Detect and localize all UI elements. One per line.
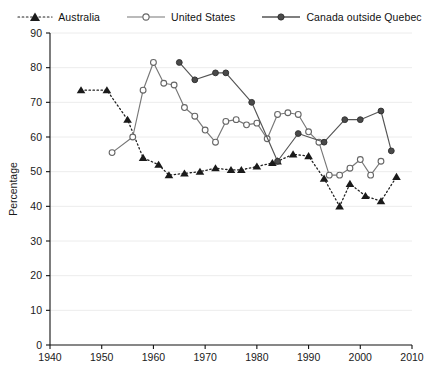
plot-area: 0102030405060708090 19401950196019701980…	[0, 0, 439, 390]
data-point	[109, 150, 115, 156]
series-line	[81, 90, 396, 206]
data-point	[306, 129, 312, 135]
data-point	[161, 80, 167, 86]
data-point	[289, 150, 298, 157]
data-point	[378, 158, 384, 164]
y-tick-label: 20	[30, 269, 42, 281]
y-tick-label: 0	[36, 339, 42, 351]
data-point	[130, 134, 136, 140]
y-axis-title: Percentage	[7, 162, 19, 216]
data-point	[342, 117, 348, 123]
data-point	[253, 162, 262, 169]
data-point	[377, 197, 386, 204]
x-tick-label: 1960	[142, 351, 166, 363]
data-point	[213, 139, 219, 145]
x-tick-label: 1980	[245, 351, 269, 363]
y-tick-label: 30	[30, 235, 42, 247]
data-point	[233, 117, 239, 123]
chart-svg: 0102030405060708090 19401950196019701980…	[0, 0, 439, 390]
data-point	[295, 131, 301, 137]
data-point	[347, 165, 353, 171]
data-point	[388, 148, 394, 154]
data-point	[392, 173, 401, 180]
chart-container: Australia United States Canada outside Q…	[0, 0, 439, 390]
data-point	[154, 161, 163, 168]
data-series-layer	[77, 60, 401, 210]
y-tick-label: 70	[30, 96, 42, 108]
y-tick-label: 40	[30, 200, 42, 212]
data-point	[304, 152, 313, 159]
data-point	[254, 120, 260, 126]
data-point	[213, 70, 219, 76]
series-australia	[77, 86, 401, 209]
x-tick-label: 1940	[38, 351, 62, 363]
data-point	[368, 172, 374, 178]
data-point	[249, 99, 255, 105]
data-point	[171, 82, 177, 88]
data-point	[378, 108, 384, 114]
series-line	[112, 62, 381, 175]
data-point	[285, 110, 291, 116]
x-tick-label: 1970	[193, 351, 217, 363]
data-point	[202, 127, 208, 133]
x-axis-ticks: 19401950196019701980199020002010	[38, 345, 424, 363]
data-point	[123, 116, 132, 123]
x-tick-label: 1990	[297, 351, 321, 363]
data-point	[151, 60, 157, 66]
data-point	[182, 105, 188, 111]
data-point	[103, 86, 112, 93]
data-point	[223, 119, 229, 125]
x-tick-label: 1950	[90, 351, 114, 363]
data-point	[211, 164, 220, 171]
data-point	[275, 158, 281, 164]
x-tick-label: 2000	[349, 351, 373, 363]
y-tick-label: 50	[30, 165, 42, 177]
data-point	[244, 122, 250, 128]
data-point	[357, 157, 363, 163]
data-point	[139, 154, 148, 161]
data-point	[192, 77, 198, 83]
data-point	[223, 70, 229, 76]
y-tick-label: 60	[30, 131, 42, 143]
y-axis-ticks: 0102030405060708090	[30, 27, 50, 351]
data-point	[275, 112, 281, 118]
data-point	[192, 113, 198, 119]
y-tick-label: 10	[30, 304, 42, 316]
data-point	[321, 139, 327, 145]
data-point	[140, 87, 146, 93]
data-point	[346, 180, 355, 187]
data-point	[77, 86, 86, 93]
data-point	[295, 112, 301, 118]
y-tick-label: 80	[30, 61, 42, 73]
data-point	[357, 117, 363, 123]
x-tick-label: 2010	[400, 351, 424, 363]
y-tick-label: 90	[30, 27, 42, 39]
data-point	[337, 172, 343, 178]
data-point	[326, 172, 332, 178]
data-point	[176, 60, 182, 66]
